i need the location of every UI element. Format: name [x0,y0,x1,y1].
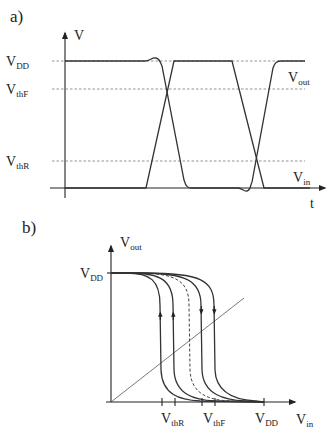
vdd-label: VDD [6,54,30,71]
transfer-curve-3 [111,273,264,402]
vin-axis-label: Vin [296,412,314,429]
direction-arrows [160,306,214,320]
vout-axis-label: Vout [120,235,142,252]
transfer-curve-4 [111,273,264,402]
vthr-x-tick-label: VthR [161,411,184,428]
panel-a: a) V t VDD VthF VthR Vout Vin [6,7,325,211]
panel-a-label: a) [10,7,23,26]
vout-signal-label: Vout [288,70,310,87]
unity-gain-line [111,298,244,402]
panel-b: b) Vout Vin VDD VthR VthF VDD [22,218,314,429]
vthf-x-tick-label: VthF [203,411,225,428]
vthr-label: VthR [6,154,29,171]
transfer-curve-reference [111,273,264,402]
vin-signal-label: Vin [293,170,311,187]
v-axis-label: V [74,28,84,43]
vthf-label: VthF [6,82,28,99]
transfer-curve-2 [111,273,264,402]
t-axis-label: t [310,196,314,211]
vout-waveform [65,58,305,191]
vdd-x-tick-label: VDD [255,411,279,428]
vin-waveform [65,61,310,188]
hysteresis-diagram: a) V t VDD VthF VthR Vout Vin b) Vout Vi… [0,0,335,442]
transfer-curve-1 [111,273,264,402]
panel-b-label: b) [22,218,36,237]
vdd-y-tick-label: VDD [80,266,104,283]
